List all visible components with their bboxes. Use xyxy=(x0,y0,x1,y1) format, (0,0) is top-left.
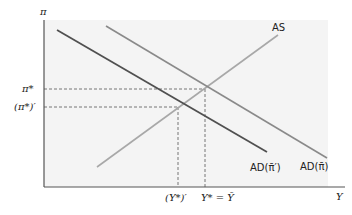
ad-as-chart: π Y AS AD(π̄) AD(π̄′) π* (π*)′ (Y*)′ Y* … xyxy=(0,0,352,215)
x-axis-label: Y xyxy=(336,191,344,202)
y-star-prime-label: (Y*)′ xyxy=(165,192,187,203)
as-label: AS xyxy=(272,22,285,33)
ad-prime-label: AD(π̄′) xyxy=(250,162,281,173)
y-axis-label: π xyxy=(39,6,47,17)
pi-star-label: π* xyxy=(21,83,34,94)
y-star-label: Y* = Ȳ xyxy=(201,192,235,203)
plot-background xyxy=(44,20,328,187)
ad-label: AD(π̄) xyxy=(300,161,328,172)
pi-star-prime-label: (π*)′ xyxy=(14,101,36,112)
